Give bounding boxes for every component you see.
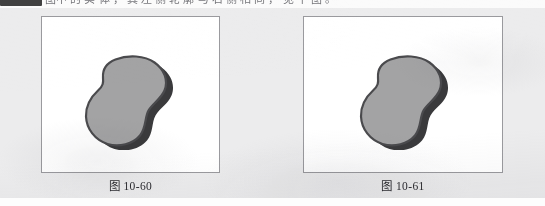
gourd-blob-body: [361, 56, 441, 145]
gourd-blob-icon: [353, 50, 451, 150]
figure-caption-10-61: 图 10-61: [303, 179, 503, 193]
redacted-text-block: █████: [0, 0, 42, 6]
partial-text-line: █████ 图中 的 实 体 ， 其 左 侧 轮 廓 与 右 侧 相 同 ， 见…: [0, 0, 545, 6]
gourd-blob-container: [78, 50, 176, 150]
figure-caption-10-60: 图 10-60: [41, 179, 220, 193]
figure-panel-inner: [304, 17, 502, 172]
partial-text-content: 图中 的 实 体 ， 其 左 侧 轮 廓 与 右 侧 相 同 ， 见 下 图 。: [45, 0, 336, 5]
gourd-blob-icon: [78, 50, 176, 150]
gourd-blob-body: [86, 56, 166, 145]
figure-panel-10-60: [41, 16, 220, 173]
figure-panel-10-61: [303, 16, 503, 173]
figure-panel-inner: [42, 17, 219, 172]
gourd-blob-container: [353, 50, 451, 150]
scanned-page: █████ 图中 的 实 体 ， 其 左 侧 轮 廓 与 右 侧 相 同 ， 见…: [0, 0, 545, 206]
top-partial-text-strip: █████ 图中 的 实 体 ， 其 左 侧 轮 廓 与 右 侧 相 同 ， 见…: [0, 0, 545, 8]
bottom-white-strip: [0, 198, 545, 206]
